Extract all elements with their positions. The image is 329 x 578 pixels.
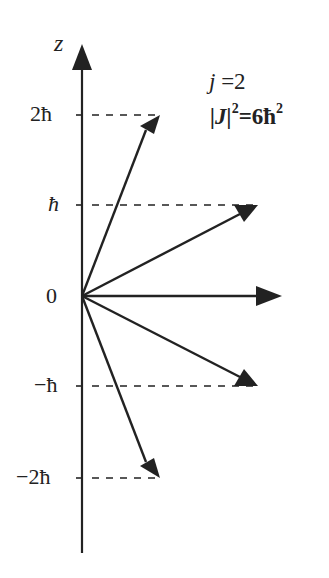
vector-m1 (82, 214, 240, 296)
tick-label-neg-hbar: −ħ (34, 372, 57, 398)
vector-m1-arrowhead-icon (234, 205, 258, 222)
tick-label-zero-text: 0 (46, 283, 57, 308)
hbar-exponent: 2 (276, 101, 283, 116)
vector-m-2-arrowhead-icon (140, 458, 160, 478)
z-axis-label: z (54, 30, 63, 57)
j-value: =2 (215, 69, 245, 94)
tick-label-hbar: ħ (48, 191, 59, 217)
vector-m-1 (82, 296, 240, 377)
vector-m-1-arrowhead-icon (234, 369, 258, 386)
tick-label-zero: 0 (46, 283, 57, 309)
tick-label-hbar-text: ħ (48, 191, 59, 216)
vector-m2 (82, 130, 146, 296)
J-exponent: 2 (232, 101, 239, 116)
z-axis-arrowhead-icon (72, 44, 92, 70)
angular-momentum-vectors (82, 115, 282, 478)
tick-label-2hbar-text: 2ħ (30, 101, 52, 126)
J-equals-value: =6ħ (239, 104, 276, 129)
vector-m2-arrowhead-icon (140, 115, 160, 134)
vector-m-2 (82, 296, 146, 462)
vector-m0-arrowhead-icon (256, 286, 282, 306)
tick-label-2hbar: 2ħ (30, 101, 52, 127)
quantum-number-j: j =2 (209, 69, 246, 95)
tick-label-neg-2hbar: −2ħ (16, 464, 50, 490)
J-magnitude: |J| (210, 104, 232, 129)
tick-label-neg-2hbar-text: −2ħ (16, 464, 50, 489)
total-angular-momentum: |J|2=6ħ2 (210, 104, 283, 130)
tick-label-neg-hbar-text: −ħ (34, 372, 57, 397)
